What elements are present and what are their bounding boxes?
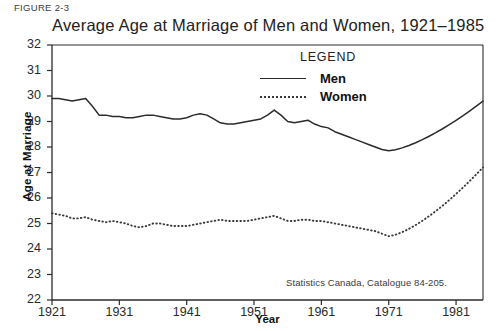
legend-entry-women: Women <box>238 89 418 104</box>
y-tick-label-31: 31 <box>19 63 41 77</box>
y-tick-label-25: 25 <box>19 216 41 230</box>
y-tick-label-24: 24 <box>19 241 41 255</box>
y-tick-label-32: 32 <box>19 37 41 51</box>
chart-plot-area: 2223242526272829303132 19211931194119511… <box>0 0 501 331</box>
legend-swatch-men-solid-line-icon <box>260 74 306 84</box>
series-line-women <box>52 167 483 236</box>
legend-label-women: Women <box>320 89 367 104</box>
y-axis-title: Age at Marriage <box>21 96 33 216</box>
legend-label-men: Men <box>320 71 346 86</box>
legend-entry-men: Men <box>238 71 418 86</box>
y-tick-label-23: 23 <box>19 267 41 281</box>
source-attribution: Statistics Canada, Catalogue 84-205. <box>286 277 447 288</box>
legend-swatch-women-dotted-line-icon <box>260 92 306 102</box>
legend-title: LEGEND <box>238 50 418 64</box>
x-axis-title: Year <box>52 313 483 325</box>
chart-legend: LEGEND Men Women <box>238 50 418 107</box>
y-tick-label-22: 22 <box>19 292 41 306</box>
y-tick-marks <box>47 45 52 300</box>
